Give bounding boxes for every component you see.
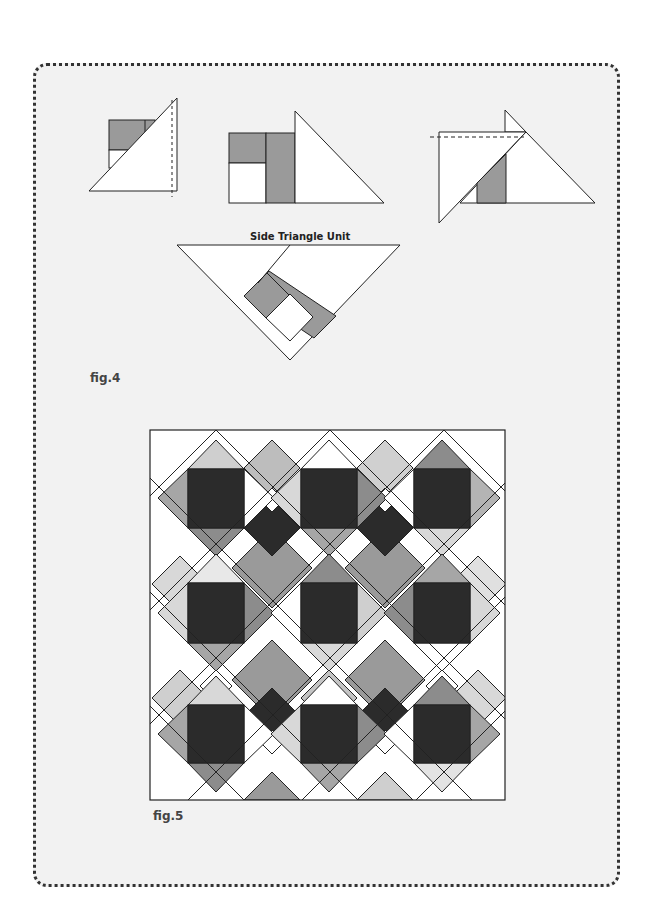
side-triangle-unit-title: Side Triangle Unit [250, 231, 350, 242]
fig4-label: fig.4 [90, 371, 120, 385]
fig4-step1 [89, 98, 177, 197]
fig5-label: fig.5 [153, 809, 183, 823]
diagram-canvas [0, 0, 653, 921]
fig4-step3 [430, 110, 595, 223]
quilt-layout [102, 430, 620, 872]
side-triangle-unit [177, 245, 400, 360]
fig4-step2 [229, 111, 384, 203]
